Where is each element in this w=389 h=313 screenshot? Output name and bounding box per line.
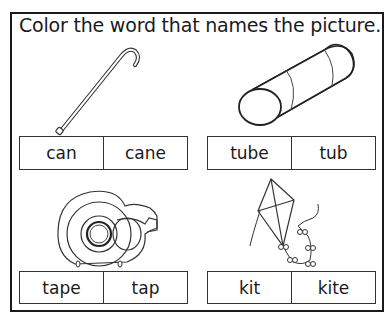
word-option-tape[interactable]: tape: [20, 272, 103, 303]
word-choice-row-3: tape tap: [19, 271, 188, 304]
word-option-tube[interactable]: tube: [208, 137, 291, 169]
word-option-tub[interactable]: tub: [291, 137, 375, 169]
tube-icon: [228, 40, 358, 132]
tape-dispenser-icon: [55, 186, 160, 268]
word-option-tap[interactable]: tap: [103, 272, 187, 303]
word-choice-row-4: kit kite: [207, 271, 376, 304]
word-option-kite[interactable]: kite: [291, 272, 375, 303]
word-option-can[interactable]: can: [20, 137, 103, 169]
cane-icon: [55, 45, 145, 135]
instruction-title: Color the word that names the picture.: [19, 14, 381, 36]
word-option-kit[interactable]: kit: [208, 272, 291, 303]
word-option-cane[interactable]: cane: [103, 137, 187, 169]
word-choice-row-1: can cane: [19, 136, 188, 170]
word-choice-row-2: tube tub: [207, 136, 376, 170]
kite-icon: [248, 176, 338, 271]
